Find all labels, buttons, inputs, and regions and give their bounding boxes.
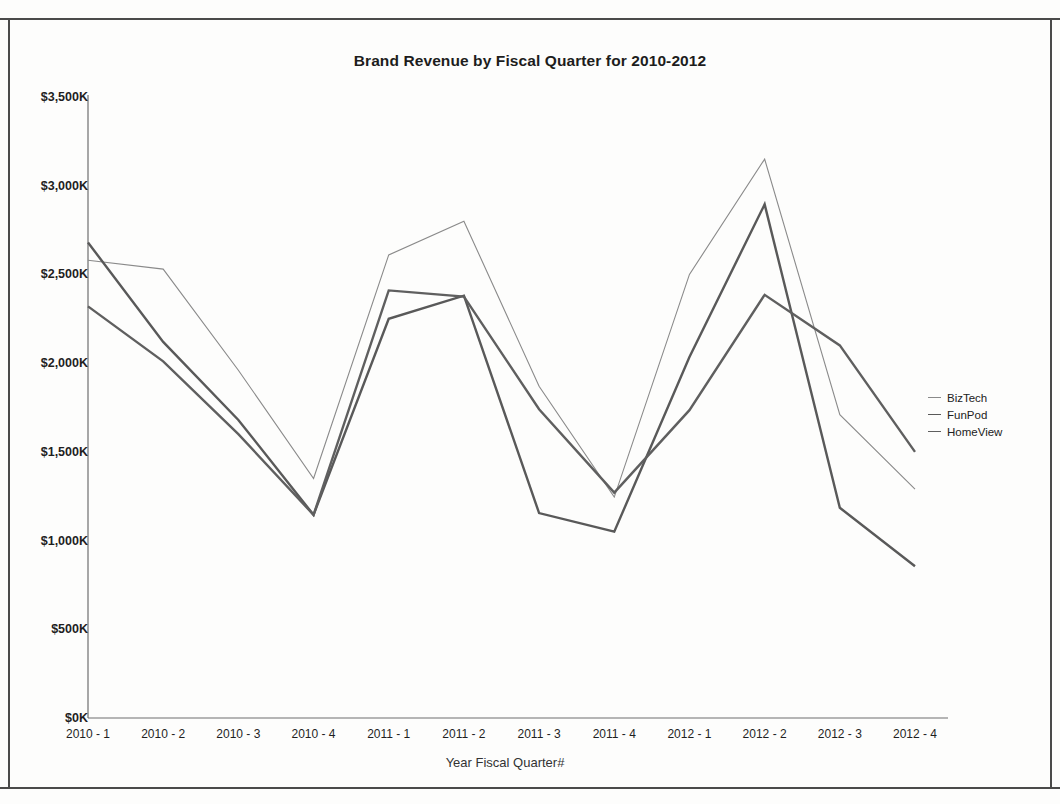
series-line-biztech — [88, 159, 915, 497]
x-axis-tick-label: 2010 - 3 — [216, 727, 260, 741]
series-lines — [88, 159, 915, 566]
legend-item-label: BizTech — [947, 392, 987, 404]
legend-swatch-line-icon — [928, 414, 941, 415]
legend-item-label: FunPod — [947, 409, 987, 421]
legend-swatch-line-icon — [928, 397, 941, 398]
chart-page: Brand Revenue by Fiscal Quarter for 2010… — [0, 0, 1060, 804]
legend-item[interactable]: HomeView — [928, 423, 1048, 440]
y-axis-tick-label: $3,500K — [16, 90, 88, 104]
x-axis-tick-label: 2011 - 1 — [367, 727, 410, 741]
y-axis-tick-label: $500K — [16, 622, 88, 636]
y-axis-tick-label: $2,000K — [16, 356, 88, 370]
x-axis-tick-label: 2012 - 3 — [818, 727, 862, 741]
x-axis-tick-label: 2010 - 4 — [292, 727, 336, 741]
x-axis-tick-label: 2011 - 4 — [593, 727, 636, 741]
y-axis-tick-label: $3,000K — [16, 179, 88, 193]
axis-lines — [88, 95, 948, 718]
legend-item-label: HomeView — [947, 426, 1002, 438]
x-axis-title: Year Fiscal Quarter# — [0, 755, 1010, 770]
y-axis-tick-labels: $0K$500K$1,000K$1,500K$2,000K$2,500K$3,0… — [0, 0, 88, 804]
plot-area: $0K$500K$1,000K$1,500K$2,000K$2,500K$3,0… — [0, 0, 1060, 804]
x-axis-tick-label: 2012 - 2 — [743, 727, 787, 741]
x-axis-tick-label: 2010 - 1 — [66, 727, 110, 741]
x-axis-tick-label: 2011 - 2 — [442, 727, 485, 741]
x-axis-tick-label: 2010 - 2 — [141, 727, 185, 741]
y-axis-tick-label: $1,500K — [16, 445, 88, 459]
legend-item[interactable]: FunPod — [928, 406, 1048, 423]
y-axis-tick-label: $1,000K — [16, 534, 88, 548]
x-axis-tick-label: 2011 - 3 — [518, 727, 561, 741]
series-line-funpod — [88, 204, 915, 566]
legend-swatch-line-icon — [928, 431, 941, 432]
legend-item[interactable]: BizTech — [928, 389, 1048, 406]
x-axis-tick-label: 2012 - 1 — [667, 727, 711, 741]
x-axis-tick-label: 2012 - 4 — [893, 727, 937, 741]
chart-legend: BizTechFunPodHomeView — [928, 389, 1048, 440]
y-axis-tick-label: $2,500K — [16, 267, 88, 281]
y-axis-tick-label: $0K — [16, 711, 88, 725]
chart-canvas — [0, 0, 1060, 804]
